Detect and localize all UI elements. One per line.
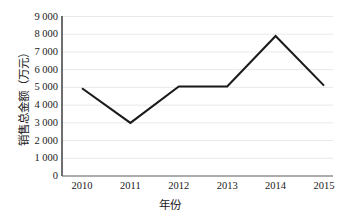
x-axis-tick-label: 2014 — [253, 180, 299, 192]
data-series-line — [82, 36, 324, 123]
x-axis-tick-label: 2012 — [156, 180, 202, 192]
x-axis-tick-labels: 201020112012201320142015 — [0, 180, 339, 196]
x-axis-tick-label: 2015 — [301, 180, 339, 192]
x-axis-tick-label: 2011 — [107, 180, 153, 192]
x-axis-tick-label: 2013 — [204, 180, 250, 192]
x-axis-tick-label: 2010 — [59, 180, 105, 192]
line-chart: 销售总金额（万元） 01 0002 0003 0004 0005 0006 00… — [0, 0, 339, 224]
x-axis-title: 年份 — [0, 198, 339, 212]
